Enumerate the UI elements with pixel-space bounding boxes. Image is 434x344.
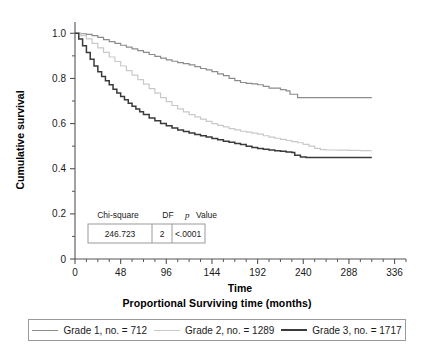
y-tick-label: 0.2 xyxy=(52,208,66,219)
kaplan-meier-plot: 00.20.40.60.81.0 04896144192240288336 Cu… xyxy=(0,0,434,300)
x-tick-label: 336 xyxy=(386,267,403,278)
legend-item-grade-3: Grade 3, no. = 1717 xyxy=(281,325,401,336)
legend-label-grade-3: Grade 3, no. = 1717 xyxy=(312,325,401,336)
x-tick-label: 96 xyxy=(161,267,173,278)
x-axis-tick-labels: 04896144192240288336 xyxy=(72,267,403,278)
stat-header-chi-square: Chi-square xyxy=(97,210,139,220)
figure-caption: Proportional Surviving time (months) xyxy=(0,297,434,309)
survival-curve-grade-1 xyxy=(75,33,372,97)
survival-curves xyxy=(75,33,372,157)
legend-swatch-grade-1 xyxy=(32,330,58,331)
legend-item-grade-1: Grade 1, no. = 712 xyxy=(32,325,147,336)
stat-header-p-italic: p xyxy=(184,210,190,220)
stat-header-df: DF xyxy=(162,210,173,220)
legend-label-grade-1: Grade 1, no. = 712 xyxy=(63,325,147,336)
statistics-table: Chi-square DF p Value 246.723 2 <.0001 xyxy=(88,204,217,243)
axis-lines xyxy=(75,22,406,259)
stat-header-p-rest: Value xyxy=(196,210,217,220)
legend-item-grade-2: Grade 2, no. = 1289 xyxy=(154,325,274,336)
y-tick-label: 0.6 xyxy=(52,118,66,129)
x-tick-label: 288 xyxy=(341,267,358,278)
legend-label-grade-2: Grade 2, no. = 1289 xyxy=(185,325,274,336)
chart-legend: Grade 1, no. = 712Grade 2, no. = 1289Gra… xyxy=(28,319,406,341)
stat-value-p: <.0001 xyxy=(175,229,202,239)
y-tick-label: 0 xyxy=(60,254,66,265)
x-tick-label: 144 xyxy=(204,267,221,278)
x-tick-label: 240 xyxy=(295,267,312,278)
survival-curve-grade-3 xyxy=(75,33,372,157)
y-tick-label: 0.4 xyxy=(52,163,66,174)
x-tick-label: 48 xyxy=(115,267,127,278)
y-tick-label: 0.8 xyxy=(52,73,66,84)
survival-curve-grade-2 xyxy=(75,33,372,150)
stat-value-chi-square: 246.723 xyxy=(105,229,136,239)
x-tick-label: 192 xyxy=(249,267,266,278)
legend-swatch-grade-3 xyxy=(281,329,307,331)
survival-chart-figure: 00.20.40.60.81.0 04896144192240288336 Cu… xyxy=(0,0,434,344)
stat-header-p-value: p Value xyxy=(184,204,217,221)
legend-swatch-grade-2 xyxy=(154,330,180,331)
x-axis-title: Time xyxy=(228,282,252,294)
y-axis-tick-labels: 00.20.40.60.81.0 xyxy=(52,28,66,265)
x-tick-label: 0 xyxy=(72,267,78,278)
y-axis-title: Cumulative survival xyxy=(14,90,26,189)
chart-plot-area: 00.20.40.60.81.0 04896144192240288336 Cu… xyxy=(0,0,434,300)
y-tick-label: 1.0 xyxy=(52,28,66,39)
stat-value-df: 2 xyxy=(160,229,165,239)
